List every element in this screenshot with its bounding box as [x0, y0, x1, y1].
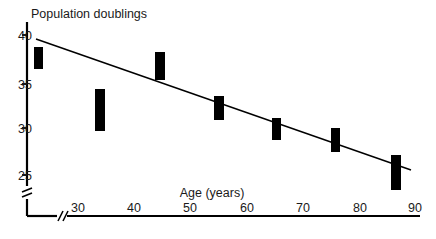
x-axis-break-icon [58, 211, 63, 221]
x-axis-title: Age (years) [180, 186, 245, 200]
range-bar [214, 96, 224, 120]
range-bar [155, 52, 165, 80]
y-axis-title: Population doublings [31, 7, 147, 21]
range-bar [272, 118, 281, 140]
y-tick-label-35: 35 [18, 78, 32, 92]
x-tick-label-70: 70 [296, 201, 310, 215]
x-tick-label-50: 50 [183, 201, 197, 215]
range-bar [391, 155, 401, 190]
x-tick-label-30: 30 [71, 201, 85, 215]
y-tick-label-40: 40 [18, 29, 32, 43]
y-axis-break-icon [22, 188, 32, 192]
y-axis-break-icon-2 [22, 193, 32, 197]
x-tick-label-90: 90 [408, 201, 422, 215]
x-tick-label-40: 40 [127, 201, 141, 215]
x-tick-label-60: 60 [240, 201, 254, 215]
data-series-ranges [34, 47, 401, 190]
range-bar [95, 89, 105, 131]
chart-svg: 40 35 30 25 30 40 50 60 70 80 90 Populat… [0, 0, 436, 239]
chart-container: 40 35 30 25 30 40 50 60 70 80 90 Populat… [0, 0, 436, 239]
x-tick-label-80: 80 [353, 201, 367, 215]
range-bar [331, 128, 340, 152]
y-tick-label-30: 30 [18, 122, 32, 136]
range-bar [34, 47, 43, 69]
y-tick-label-25: 25 [18, 169, 32, 183]
